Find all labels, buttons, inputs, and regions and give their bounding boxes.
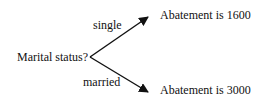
outcome-single: Abatement is 1600 bbox=[160, 8, 251, 22]
edge-label-married: married bbox=[83, 75, 120, 89]
edge-label-single: single bbox=[93, 18, 122, 32]
decision-diagram: Marital status? single married Abatement… bbox=[0, 0, 263, 102]
outcome-married: Abatement is 3000 bbox=[160, 83, 251, 97]
root-node-label: Marital status? bbox=[17, 50, 88, 64]
